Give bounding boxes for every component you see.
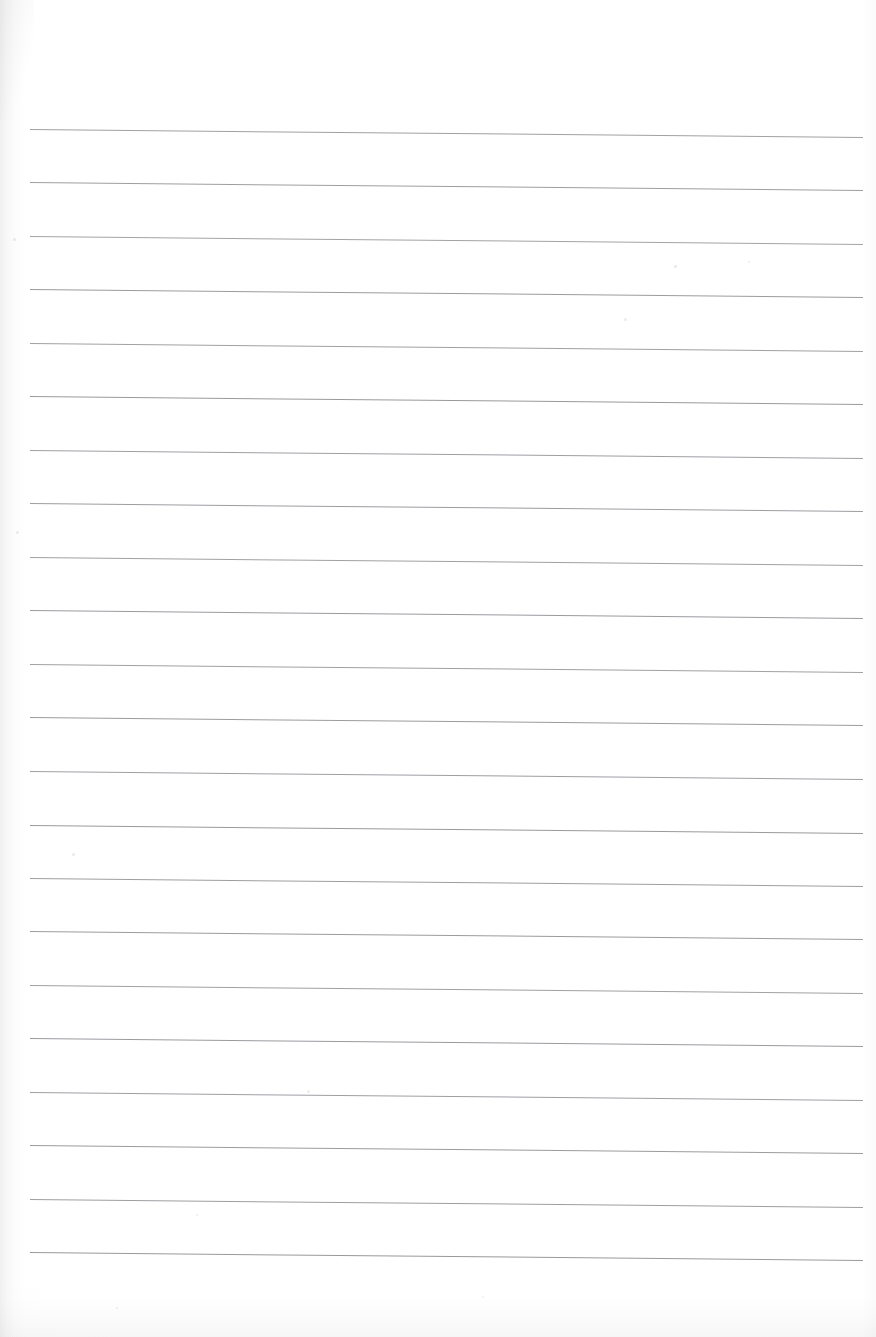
scan-artifacts-group (0, 0, 876, 1337)
ruled-line (30, 182, 863, 191)
scan-speck (196, 1214, 198, 1216)
ruled-line (30, 557, 863, 566)
ruled-line (30, 717, 863, 726)
scan-speck (482, 1296, 484, 1298)
top-left-corner-shadow (0, 0, 34, 120)
ruled-line (30, 931, 863, 940)
scanned-page (0, 0, 876, 1337)
ruled-line (30, 396, 863, 405)
ruled-line (30, 985, 863, 994)
ruled-line (30, 1092, 863, 1101)
ruled-line (30, 878, 863, 887)
scan-speck (748, 261, 750, 263)
ruled-line (30, 1145, 863, 1154)
right-edge-shadow (862, 0, 876, 1337)
scan-speck (13, 238, 16, 241)
ruled-line (30, 129, 863, 138)
ruled-line (30, 664, 863, 673)
ruled-line (30, 771, 863, 780)
scan-speck (624, 318, 627, 321)
ruled-line (30, 503, 863, 512)
ruled-line (30, 610, 863, 619)
scan-speck (307, 1090, 310, 1093)
ruled-line (30, 825, 863, 834)
ruled-line (30, 1199, 863, 1208)
ruled-line (30, 343, 863, 352)
ruled-line (30, 289, 863, 298)
ruled-line (30, 450, 863, 459)
ruled-lines-group (0, 0, 876, 1337)
scan-speck (674, 265, 677, 268)
left-edge-shadow (0, 0, 26, 1337)
paper-surface (0, 0, 876, 1337)
ruled-line (30, 236, 863, 245)
ruled-line (30, 1252, 863, 1261)
scan-speck (116, 1307, 118, 1309)
bottom-edge-shadow (0, 1281, 876, 1337)
ruled-line (30, 1038, 863, 1047)
scan-speck (16, 531, 19, 534)
scan-speck (72, 853, 75, 856)
